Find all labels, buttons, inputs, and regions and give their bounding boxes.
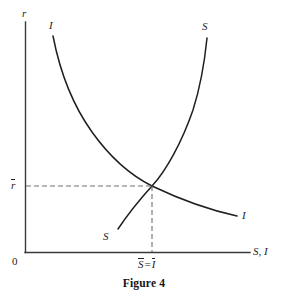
curve-label-saving-bottom: S bbox=[103, 231, 109, 242]
s-bar-overbar: S bbox=[138, 258, 144, 270]
r-bar-overbar: r bbox=[11, 179, 15, 191]
origin-label: 0 bbox=[12, 256, 18, 267]
figure-caption: Figure 4 bbox=[0, 277, 288, 289]
investment-curve bbox=[53, 36, 237, 216]
x-axis-label: S, I bbox=[253, 246, 268, 257]
saving-curve bbox=[118, 38, 207, 229]
equals-sign: = bbox=[144, 258, 152, 270]
x-tick-label-equilibrium-quantity: S=I bbox=[138, 258, 155, 270]
i-bar-overbar: I bbox=[152, 258, 156, 270]
y-axis-label: r bbox=[22, 8, 26, 19]
plot-area bbox=[0, 0, 288, 294]
curve-label-investment-bottom: I bbox=[242, 210, 246, 221]
curve-label-investment-top: I bbox=[49, 20, 53, 31]
curve-label-saving-top: S bbox=[202, 21, 208, 32]
figure-container: r I S S I r S=I S, I 0 Figure 4 bbox=[0, 0, 288, 294]
y-tick-label-equilibrium-rate: r bbox=[11, 179, 15, 191]
